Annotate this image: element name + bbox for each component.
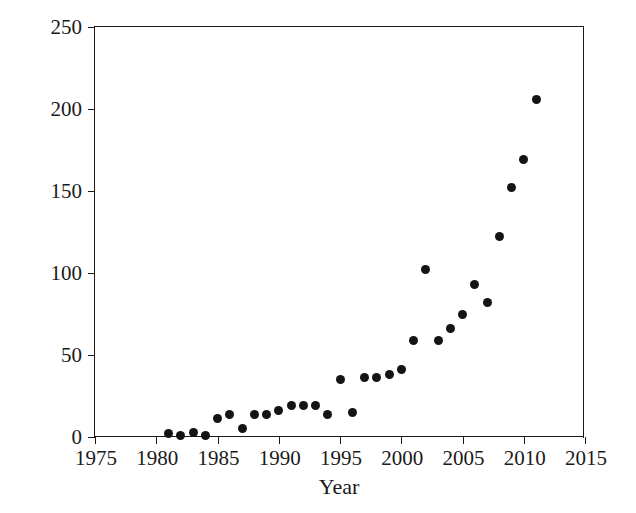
data-point xyxy=(532,95,541,104)
x-tick-label: 2005 xyxy=(443,447,485,470)
y-tick: 50 xyxy=(88,355,95,356)
x-tick-label: 1985 xyxy=(198,447,240,470)
y-tick: 150 xyxy=(88,191,95,192)
data-point xyxy=(470,280,479,289)
data-point xyxy=(176,431,185,440)
data-point xyxy=(458,310,467,319)
data-point xyxy=(507,183,516,192)
data-point xyxy=(323,410,332,419)
x-tick: 1975 xyxy=(95,437,96,444)
x-tick-label: 1975 xyxy=(75,447,117,470)
data-point xyxy=(409,336,418,345)
data-point xyxy=(483,298,492,307)
x-tick: 1980 xyxy=(156,437,157,444)
data-point xyxy=(336,375,345,384)
data-point xyxy=(360,373,369,382)
data-point xyxy=(385,370,394,379)
data-point xyxy=(238,424,247,433)
data-point xyxy=(164,429,173,438)
data-point xyxy=(446,324,455,333)
data-point xyxy=(397,365,406,374)
publications-per-year-chart: 050100150200250 197519801985199019952000… xyxy=(0,0,636,513)
x-tick-label: 1990 xyxy=(259,447,301,470)
scatter-series xyxy=(95,27,585,437)
x-tick: 1995 xyxy=(340,437,341,444)
x-tick: 1985 xyxy=(218,437,219,444)
data-point xyxy=(262,410,271,419)
x-tick-label: 2010 xyxy=(504,447,546,470)
data-point xyxy=(495,232,504,241)
y-tick-label: 100 xyxy=(51,262,83,284)
x-tick: 2015 xyxy=(585,437,586,444)
x-tick-label: 1995 xyxy=(320,447,362,470)
data-point xyxy=(299,401,308,410)
x-tick-label: 2015 xyxy=(565,447,607,470)
data-point xyxy=(421,265,430,274)
y-tick: 200 xyxy=(88,109,95,110)
x-tick-label: 1980 xyxy=(136,447,178,470)
data-point xyxy=(519,155,528,164)
data-point xyxy=(213,414,222,423)
data-point xyxy=(274,406,283,415)
y-tick-label: 250 xyxy=(51,16,83,38)
data-point xyxy=(287,401,296,410)
y-tick: 100 xyxy=(88,273,95,274)
y-tick: 250 xyxy=(88,27,95,28)
data-point xyxy=(311,401,320,410)
data-point xyxy=(348,408,357,417)
y-tick-label: 200 xyxy=(51,98,83,120)
y-tick-label: 0 xyxy=(72,426,83,448)
data-point xyxy=(201,431,210,440)
x-tick: 2000 xyxy=(401,437,402,444)
x-tick: 2005 xyxy=(463,437,464,444)
x-tick: 2010 xyxy=(524,437,525,444)
x-tick-label: 2000 xyxy=(381,447,423,470)
x-axis-title: Year xyxy=(94,474,584,500)
y-tick-label: 150 xyxy=(51,180,83,202)
y-tick-label: 50 xyxy=(61,344,82,366)
data-point xyxy=(189,428,198,437)
y-tick: 0 xyxy=(88,437,95,438)
plot-area: 050100150200250 197519801985199019952000… xyxy=(94,27,584,437)
data-point xyxy=(225,410,234,419)
data-point xyxy=(250,410,259,419)
x-tick: 1990 xyxy=(279,437,280,444)
data-point xyxy=(372,373,381,382)
data-point xyxy=(434,336,443,345)
